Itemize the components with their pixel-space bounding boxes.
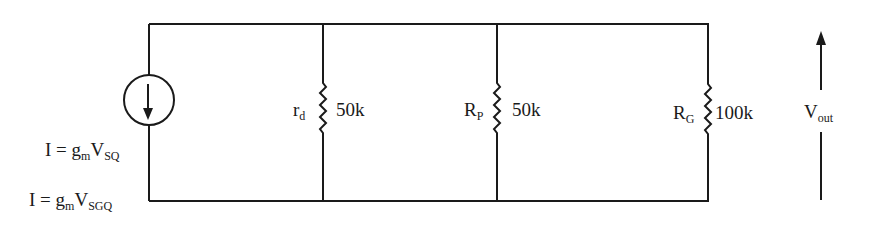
source-label-sq-sub1: m — [81, 149, 90, 163]
rp-value-label: 50k — [512, 100, 541, 119]
rg-name-main: R — [673, 102, 686, 123]
current-source-icon — [124, 75, 174, 125]
resistor-rg-icon — [705, 24, 711, 201]
rg-value-label: 100k — [715, 103, 753, 122]
vout-label: Vout — [804, 102, 833, 124]
source-label-sgq-prefix: I = g — [29, 189, 65, 210]
rp-name-main: R — [464, 99, 477, 120]
source-label-sgq: I = gmVSGQ — [29, 190, 112, 212]
source-label-sgq-mid: V — [74, 189, 88, 210]
source-label-sq-mid: V — [90, 139, 104, 160]
source-label-sgq-sub1: m — [65, 199, 74, 213]
rd-name-label: rd — [293, 100, 305, 122]
rg-name-sub: G — [686, 112, 695, 126]
source-label-sgq-sub2: SGQ — [88, 199, 112, 213]
rd-name-sub: d — [299, 109, 305, 123]
rd-value-label: 50k — [336, 100, 365, 119]
resistor-rd-icon — [320, 24, 326, 201]
source-label-sq-sub2: SQ — [104, 149, 119, 163]
rp-name-label: RP — [464, 100, 483, 122]
resistor-rp-icon — [494, 24, 500, 201]
vout-main: V — [804, 101, 818, 122]
source-label-sq: I = gmVSQ — [45, 140, 119, 162]
source-label-sq-prefix: I = g — [45, 139, 81, 160]
rg-name-label: RG — [673, 103, 694, 125]
vout-sub: out — [818, 111, 833, 125]
rp-name-sub: P — [477, 109, 484, 123]
